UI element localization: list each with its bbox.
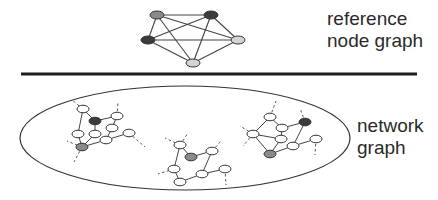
- network-label-line-1: network: [357, 115, 424, 137]
- reference-node: [204, 11, 218, 19]
- network-node-left: [76, 143, 88, 151]
- network-node-right: [264, 150, 276, 158]
- network-node-left: [106, 124, 118, 132]
- network-node-left: [89, 130, 101, 138]
- reference-node: [150, 11, 164, 19]
- reference-node: [186, 59, 200, 67]
- network-node-right: [247, 130, 259, 138]
- network-node-left: [72, 130, 84, 138]
- network-node-right: [310, 135, 322, 143]
- network-node-right: [299, 118, 311, 126]
- network-node-right: [287, 142, 299, 150]
- network-graph-label: network graph: [357, 115, 424, 159]
- reference-edge: [157, 15, 193, 63]
- reference-edge: [157, 15, 238, 40]
- network-node-left: [77, 105, 89, 113]
- network-node-left: [100, 136, 112, 144]
- reference-edge: [193, 15, 211, 63]
- reference-graph-nodes: [141, 11, 245, 67]
- network-node-middle: [174, 141, 186, 149]
- reference-node: [141, 36, 155, 44]
- reference-node-graph-label: reference node graph: [327, 8, 423, 52]
- network-node-middle: [168, 165, 180, 173]
- reference-label-line-2: node graph: [327, 30, 423, 52]
- network-boundary-ellipse: [20, 86, 350, 190]
- network-node-middle: [174, 178, 186, 186]
- reference-label-line-1: reference: [327, 8, 423, 30]
- network-node-middle: [185, 153, 197, 161]
- network-node-left: [123, 129, 135, 137]
- reference-graph-edges: [148, 15, 238, 63]
- network-node-left: [111, 112, 123, 120]
- network-node-middle: [206, 147, 218, 155]
- reference-edge: [148, 40, 193, 63]
- network-node-middle: [219, 165, 231, 173]
- reference-node: [231, 36, 245, 44]
- network-node-middle: [196, 170, 208, 178]
- network-graph-edges: [78, 109, 316, 182]
- network-node-right: [275, 135, 287, 143]
- network-node-right: [264, 113, 276, 121]
- network-node-right: [276, 124, 288, 132]
- network-label-line-2: graph: [357, 137, 424, 159]
- network-node-left: [89, 117, 101, 125]
